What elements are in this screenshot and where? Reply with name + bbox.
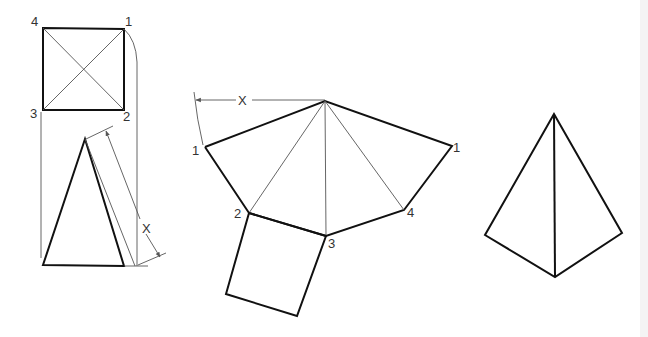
fold-line-2 [249, 101, 325, 213]
development-base-square [226, 213, 326, 316]
front-view: X [43, 126, 166, 266]
dimension-line-lower [146, 234, 160, 257]
fold-line-3 [325, 101, 326, 236]
dimension-label-x: X [142, 221, 151, 236]
label-dev-2: 2 [234, 206, 241, 221]
pictorial-front-edge [554, 114, 555, 277]
true-length-line [85, 139, 135, 266]
development-pattern: X 1 2 3 4 1 [192, 92, 460, 316]
label-top-2: 2 [123, 109, 130, 124]
label-dev-1-right: 1 [453, 140, 460, 155]
extension-line-top [86, 126, 113, 139]
pictorial-pyramid [485, 114, 622, 277]
label-dev-1-left: 1 [192, 143, 199, 158]
drawing-canvas: 4 1 2 3 X X 1 2 3 4 1 [0, 0, 648, 337]
label-top-3: 3 [30, 106, 37, 121]
development-outline [205, 101, 452, 236]
label-dev-4: 4 [407, 205, 414, 220]
radius-label-x: X [238, 93, 247, 108]
extension-line-bottom [138, 253, 166, 265]
label-top-1: 1 [125, 14, 132, 29]
top-view: 4 1 2 3 [30, 14, 137, 266]
label-dev-3: 3 [328, 236, 335, 251]
front-view-triangle [43, 139, 124, 266]
fold-line-4 [325, 101, 404, 210]
revolution-arc [124, 29, 137, 62]
label-top-4: 4 [31, 14, 38, 29]
